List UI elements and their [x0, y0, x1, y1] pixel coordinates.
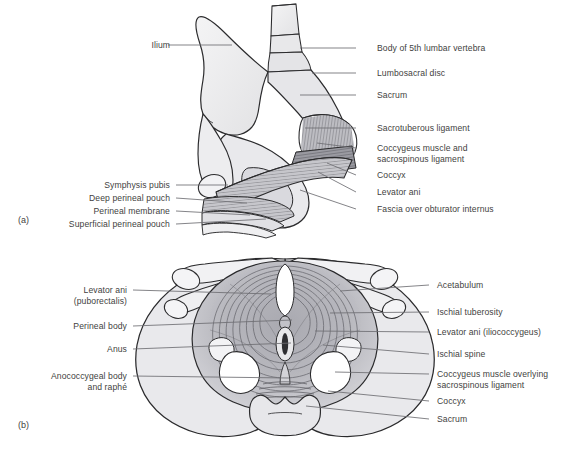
label-coccygeus-muscle-overlying: Coccygeus muscle overlyingsacrospinous l… [437, 369, 548, 391]
label-coccyx: Coccyx [377, 170, 406, 181]
label-text: Sacrotuberous ligament [377, 123, 470, 133]
label-sacrotuberous-ligament: Sacrotuberous ligament [377, 123, 470, 134]
label-text: Ischial tuberosity [437, 307, 503, 317]
lumbosacral-disc-shape [268, 52, 311, 72]
label-ischial-spine: Ischial spine [437, 349, 485, 360]
label-text: Ischial spine [437, 349, 485, 359]
label-text: Sacrum [377, 90, 407, 100]
sacrum-coccyx-shape-b [250, 395, 321, 435]
label-text: Perineal membrane [94, 206, 170, 216]
label-text: Levator ani [377, 187, 420, 197]
label-text-line2: sacrospinous ligament [437, 380, 524, 390]
label-symphysis-pubis: Symphysis pubis [0, 180, 176, 191]
label-text: Fascia over obturator internus [377, 204, 494, 214]
label-levator-ani-iliococcygeus: Levator ani (iliococcygeus) [437, 327, 541, 338]
label-text-line2: and raphé [88, 382, 127, 392]
label-fascia-over-obturator-internus: Fascia over obturator internus [377, 204, 494, 215]
label-text: Sacrum [437, 414, 467, 424]
panel-a-drawing [195, 4, 357, 238]
label-text: Superficial perineal pouch [69, 219, 170, 229]
pelvic-floor-muscle-shape [192, 261, 378, 412]
label-text-line2: (puborectalis) [74, 296, 127, 306]
label-text: Ilium [151, 40, 170, 50]
label-coccyx: Coccyx [437, 396, 466, 407]
label-anococcygeal-body: Anococcygeal bodyand raphé [0, 371, 133, 393]
anatomical-figure: IliumSymphysis pubisDeep perineal pouchP… [0, 0, 570, 451]
label-acetabulum: Acetabulum [437, 280, 483, 291]
label-lumbosacral-disc: Lumbosacral disc [377, 68, 445, 79]
panel-tag-a: (a) [18, 215, 29, 225]
label-text: Coccygeus muscle and [377, 143, 468, 153]
label-text-line2: sacrospinous ligament [377, 154, 464, 164]
label-text: Levator ani (iliococcygeus) [437, 327, 541, 337]
panel-tag-b: (b) [18, 420, 29, 430]
label-ischial-tuberosity: Ischial tuberosity [437, 307, 503, 318]
label-text: Lumbosacral disc [377, 68, 445, 78]
lumbar-vertebra-shape [270, 4, 302, 53]
label-levator-ani: Levator ani [377, 187, 420, 198]
label-text: Perineal body [73, 321, 127, 331]
label-text: Levator ani [84, 285, 127, 295]
label-text: Deep perineal pouch [89, 193, 170, 203]
label-body-of-5th-lumbar-vertebra: Body of 5th lumbar vertebra [377, 43, 485, 54]
label-text: Coccyx [437, 396, 466, 406]
urogenital-hiatus-shape [276, 264, 294, 316]
label-levator-ani: Levator ani(puborectalis) [0, 285, 133, 307]
label-text: Coccygeus muscle overlying [437, 369, 548, 379]
label-anus: Anus [0, 344, 133, 355]
ilium-shape [196, 17, 268, 135]
label-sacrum: Sacrum [437, 414, 467, 425]
anus-shape [282, 333, 288, 355]
label-text: Anus [107, 344, 127, 354]
label-perineal-body: Perineal body [0, 321, 133, 332]
label-text: Coccyx [377, 170, 406, 180]
label-text: Acetabulum [437, 280, 483, 290]
label-sacrum: Sacrum [377, 90, 407, 101]
label-coccygeus-muscle-and: Coccygeus muscle andsacrospinous ligamen… [377, 143, 468, 165]
label-text: Body of 5th lumbar vertebra [377, 43, 485, 53]
label-text: Anococcygeal body [51, 371, 127, 381]
label-text: Symphysis pubis [104, 180, 170, 190]
label-ilium: Ilium [0, 40, 176, 51]
label-deep-perineal-pouch: Deep perineal pouch [0, 193, 176, 204]
